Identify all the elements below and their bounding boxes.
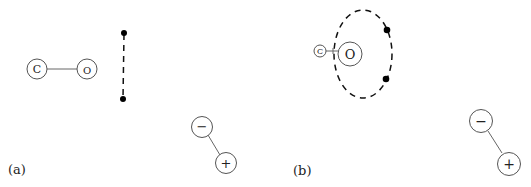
carbon-atom-a: C (27, 59, 47, 79)
electron-dot-bottom-a (120, 96, 126, 102)
panel-b: C O − + (b) (293, 10, 521, 178)
dipole-a: − + (192, 117, 237, 174)
plus-sign-a: + (221, 156, 232, 171)
carbon-label-a: C (33, 63, 41, 76)
plus-sign-b: + (503, 156, 515, 172)
negative-pole-b: − (470, 110, 493, 133)
carbon-atom-b: C (314, 45, 326, 57)
dipole-b: − + (470, 110, 521, 176)
negative-pole-a: − (192, 117, 213, 138)
electron-pair-line-a (120, 30, 127, 102)
electron-dot-top-b (384, 27, 391, 34)
minus-sign-a: − (197, 119, 208, 134)
electron-dot-top-a (121, 30, 127, 36)
oxygen-atom-a: O (77, 59, 97, 79)
minus-sign-b: − (475, 113, 487, 129)
panel-label-a: (a) (8, 162, 26, 177)
panel-a: C O − + (a) (8, 30, 237, 177)
panel-label-b: (b) (293, 163, 311, 178)
oxygen-atom-b: O (338, 42, 362, 66)
positive-pole-a: + (216, 153, 237, 174)
carbon-label-b: C (317, 47, 323, 56)
electron-dot-bottom-b (383, 76, 390, 83)
positive-pole-b: + (498, 153, 521, 176)
diagram-canvas: C O − + (a) (0, 0, 531, 187)
oxygen-label-b: O (345, 47, 356, 62)
oxygen-label-a: O (83, 65, 91, 76)
